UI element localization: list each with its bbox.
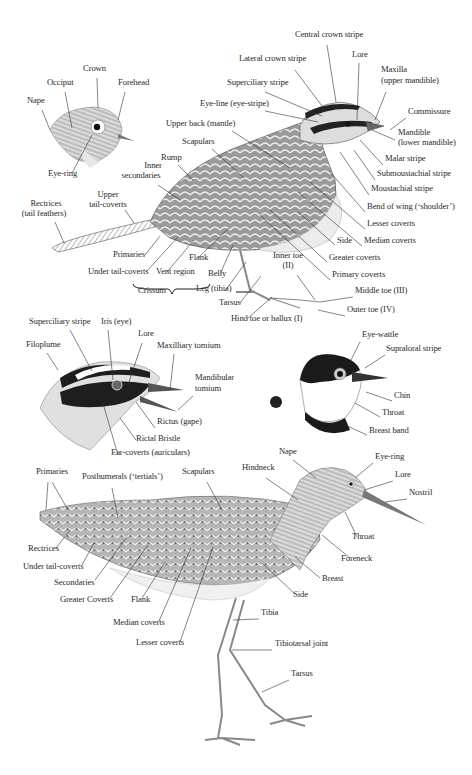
label-small-head-forehead: Forehead (118, 77, 149, 87)
label-sparrow-tarsus: Tarsus (219, 297, 241, 307)
label-sparrow-upper-tail-coverts-2: tail-coverts (89, 199, 126, 209)
label-wader-breast: Breast (322, 573, 343, 583)
label-sparrow-bend-of-wing: Bend of wing (‘shoulder’) (367, 201, 455, 211)
label-wader-side: Side (293, 589, 308, 599)
label-sparrow-flank: Flank (189, 252, 208, 262)
label-wader-lore: Lore (395, 469, 411, 479)
label-wader-tibiotarsal-joint: Tibiotarsal joint (275, 638, 328, 648)
label-wader-flank: Flank (131, 594, 150, 604)
label-sparrow-median-coverts: Median coverts (364, 235, 416, 245)
label-wader-median-coverts: Median coverts (113, 617, 165, 627)
label-small-head-eye-ring: Eye-ring (48, 168, 77, 178)
label-wader-eye-ring: Eye-ring (375, 451, 404, 461)
label-sparrow-commissure: Commissure (408, 106, 450, 116)
label-sparrow-primary-coverts: Primary coverts (332, 269, 385, 279)
label-crested-head-breast-band: Breast band (369, 425, 409, 435)
illustration-layer (0, 0, 472, 775)
label-crested-head-eye-wattle: Eye-wattle (362, 329, 398, 339)
label-sparrow-rectrices: Rectrices (30, 198, 61, 208)
label-wader-secondaries: Secondaries (54, 577, 94, 587)
label-sparrow-rump: Rump (161, 152, 182, 162)
label-sparrow-inner-secondaries: Inner (144, 160, 162, 170)
label-small-head-nape: Nape (27, 95, 45, 105)
label-wader-primaries: Primaries (36, 466, 68, 476)
label-sparrow-lore: Lore (352, 49, 368, 59)
label-sparrow-central-crown-stripe: Central crown stripe (295, 29, 363, 39)
label-sparrow-maxilla-sub: (upper mandible) (381, 75, 439, 85)
label-open-bill-head-mandibular-tomium-2: tomium (195, 383, 221, 393)
label-open-bill-head-iris: Iris (eye) (101, 316, 131, 326)
label-open-bill-head-lore: Lore (138, 328, 154, 338)
label-sparrow-inner-toe: Inner toe (273, 250, 303, 260)
label-open-bill-head-ear-coverts: Ear-coverts (auriculars) (111, 447, 190, 457)
label-sparrow-leg-tibia: Leg (tibia) (196, 283, 231, 293)
label-wader-hindneck: Hindneck (242, 462, 275, 472)
label-wader-greater-coverts: Greater Coverts (60, 594, 113, 604)
label-open-bill-head-maxilliary-tomium: Maxilliary tomium (157, 340, 220, 350)
label-sparrow-side: Side (337, 235, 352, 245)
label-sparrow-mandible: Mandible (398, 127, 430, 137)
label-wader-lesser-coverts: Lesser coverts (136, 637, 184, 647)
label-wader-under-tail-coverts: Under tail-coverts (23, 561, 83, 571)
label-sparrow-upper-back: Upper back (mantle) (166, 118, 235, 128)
label-sparrow-greater-coverts: Greater coverts (329, 252, 380, 262)
label-crested-head-throat: Throat (382, 407, 404, 417)
label-sparrow-submoustachial-stripe: Submoustachial stripe (377, 168, 451, 178)
label-sparrow-malar-stripe: Malar stripe (385, 153, 426, 163)
label-sparrow-crissum: Crissum (138, 285, 166, 295)
label-small-head-occiput: Occiput (47, 77, 74, 87)
label-sparrow-hind-toe: Hind toe or hallux (I) (231, 313, 302, 323)
label-wader-throat: Throat (352, 531, 374, 541)
label-open-bill-head-filoplume: Filoplume (26, 339, 60, 349)
label-open-bill-head-rictal-bristle: Rictal Bristle (136, 433, 180, 443)
label-open-bill-head-rictus: Rictus (gape) (157, 416, 202, 426)
label-sparrow-mandible-sub: (lower mandible) (398, 137, 456, 147)
label-sparrow-eye-line: Eye-line (eye-stripe) (200, 98, 269, 108)
label-wader-rectrices: Rectrices (28, 543, 59, 553)
label-crested-head-supraloral-stripe: Supraloral stripe (386, 343, 441, 353)
label-sparrow-moustachial-stripe: Moustachial stripe (371, 183, 433, 193)
label-sparrow-vent-region: Vent region (156, 266, 195, 276)
label-sparrow-belly: Belly (208, 268, 226, 278)
label-sparrow-maxilla: Maxilla (381, 64, 407, 74)
eye-wattle-head-illustration (270, 354, 388, 433)
bird-topography-diagram: NapeOcciputCrownForeheadEye-ringCentral … (0, 0, 472, 775)
label-open-bill-head-superciliary-stripe: Superciliary stripe (29, 316, 90, 326)
label-wader-scapulars: Scapulars (182, 466, 215, 476)
wader-illustration (40, 468, 426, 745)
label-wader-nostril: Nostril (409, 487, 432, 497)
label-sparrow-inner-secondaries-2: secondaries (122, 170, 161, 180)
label-wader-foreneck: Foreneck (341, 553, 372, 563)
label-wader-nape: Nape (279, 446, 297, 456)
label-sparrow-under-tail-coverts: Under tail-coverts (88, 266, 148, 276)
label-sparrow-superciliary-stripe: Superciliary stripe (227, 77, 288, 87)
label-wader-tibia: Tibia (261, 607, 278, 617)
label-small-head-crown: Crown (83, 63, 106, 73)
label-sparrow-outer-toe: Outer toe (IV) (347, 304, 395, 314)
label-wader-tarsus: Tarsus (291, 668, 313, 678)
label-sparrow-lateral-crown-stripe: Lateral crown stripe (239, 53, 306, 63)
small-head-illustration (50, 107, 134, 168)
label-open-bill-head-mandibular-tomium: Mandibular (195, 372, 234, 382)
label-wader-posthumerals: Posthumerals (‘tertials’) (82, 471, 163, 481)
label-sparrow-rectrices-2: (tail feathers) (22, 208, 67, 218)
label-sparrow-inner-toe-2: (II) (282, 260, 293, 270)
label-sparrow-middle-toe: Middle toe (III) (355, 285, 407, 295)
label-sparrow-lesser-coverts: Lesser coverts (367, 218, 415, 228)
label-crested-head-chin: Chin (394, 390, 410, 400)
label-sparrow-upper-tail-coverts: Upper (98, 189, 119, 199)
label-sparrow-primaries: Primaries (113, 249, 145, 259)
label-sparrow-scapulars: Scapulars (182, 136, 215, 146)
